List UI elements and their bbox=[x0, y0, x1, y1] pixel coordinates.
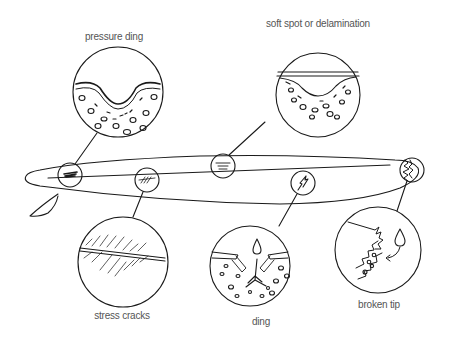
water-drop-icon bbox=[395, 229, 405, 246]
board-point-broken-tip bbox=[400, 158, 424, 182]
broken-tip-detail bbox=[335, 207, 421, 293]
label-stress-cracks: stress cracks bbox=[94, 310, 150, 321]
board-point-stress-cracks bbox=[135, 168, 159, 192]
leader-lines bbox=[75, 122, 407, 226]
board-point-pressure-ding bbox=[58, 163, 82, 187]
label-broken-tip: broken tip bbox=[358, 299, 400, 310]
pressure-ding-detail bbox=[73, 47, 163, 137]
fin bbox=[30, 194, 58, 216]
board-point-ding bbox=[291, 171, 315, 195]
label-pressure-ding: pressure ding bbox=[85, 31, 143, 42]
label-soft-spot: soft spot or delamination bbox=[266, 18, 370, 29]
soft-spot-detail bbox=[276, 53, 360, 137]
stress-cracks-detail bbox=[78, 217, 168, 307]
stringer bbox=[48, 165, 390, 178]
ding-detail bbox=[210, 226, 290, 306]
water-drop-icon bbox=[253, 239, 261, 254]
board-point-soft-spot bbox=[211, 154, 235, 178]
label-ding: ding bbox=[252, 316, 270, 327]
surfboard-diagram bbox=[0, 0, 449, 344]
surfboard bbox=[25, 156, 418, 217]
